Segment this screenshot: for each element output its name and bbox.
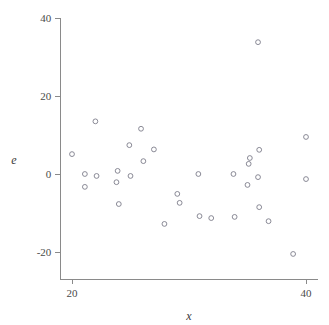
data-point — [257, 147, 262, 152]
y-tick-label: -20 — [37, 246, 52, 258]
data-point — [245, 183, 250, 188]
y-tick-label: 20 — [40, 90, 52, 102]
data-point — [175, 191, 180, 196]
data-point — [304, 177, 309, 182]
data-points — [70, 40, 309, 257]
y-tick-label: 40 — [40, 12, 52, 24]
data-point — [246, 161, 251, 166]
axis-spine — [60, 18, 317, 279]
data-point — [247, 156, 252, 161]
data-point — [82, 184, 87, 189]
data-point — [139, 126, 144, 131]
data-point — [291, 252, 296, 257]
plot-canvas: 40200-202040 x e — [0, 0, 329, 325]
data-point — [114, 180, 119, 185]
data-point — [196, 172, 201, 177]
data-point — [197, 214, 202, 219]
data-point — [232, 215, 237, 220]
axis-tick-labels: 40200-202040 — [37, 12, 312, 299]
data-point — [141, 159, 146, 164]
data-point — [231, 172, 236, 177]
data-point — [209, 216, 214, 221]
data-point — [304, 135, 309, 140]
data-point — [177, 200, 182, 205]
data-point — [152, 147, 157, 152]
data-point — [94, 174, 99, 179]
data-point — [82, 172, 87, 177]
data-point — [127, 143, 132, 148]
data-point — [115, 168, 120, 173]
data-point — [266, 219, 271, 224]
data-point — [257, 205, 262, 210]
scatter-plot-figure: 40200-202040 x e — [0, 0, 329, 325]
y-tick-label: 0 — [46, 168, 52, 180]
data-point — [116, 202, 121, 207]
data-point — [256, 175, 261, 180]
data-point — [70, 152, 75, 157]
data-point — [93, 119, 98, 124]
x-tick-label: 20 — [67, 287, 79, 299]
x-axis-title: x — [185, 309, 192, 323]
axes — [60, 18, 317, 279]
y-axis-title: e — [11, 153, 17, 167]
data-point — [128, 174, 133, 179]
data-point — [162, 222, 167, 227]
x-tick-label: 40 — [301, 287, 313, 299]
data-point — [256, 40, 261, 45]
axis-ticks — [55, 18, 306, 284]
